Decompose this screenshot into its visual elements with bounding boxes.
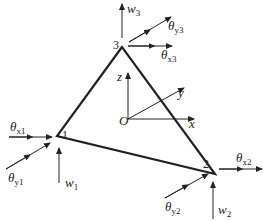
w2-label: w2	[218, 202, 231, 219]
node-3-label: 3	[113, 38, 119, 52]
theta-x3-label: θx3	[161, 47, 177, 64]
y-axis-label: y	[176, 85, 184, 100]
node-1-label: 1	[62, 128, 68, 142]
node-2-label: 2	[203, 157, 209, 171]
triangle-edges	[57, 47, 215, 174]
origin-label: O	[119, 113, 129, 128]
theta-y3-label: θy3	[168, 18, 184, 35]
node-3-dofs: w3 θy3 θx3	[122, 1, 184, 64]
theta-y1-label: θy1	[8, 170, 23, 187]
coordinate-axes: O z x y	[116, 69, 195, 131]
z-axis-label: z	[116, 69, 122, 84]
node-2-dofs: θx2 θy2 w2	[165, 150, 262, 219]
theta-x1-label: θx1	[10, 119, 25, 136]
x-axis-label: x	[188, 116, 195, 131]
theta-x2-label: θx2	[236, 150, 251, 167]
w3-label: w3	[127, 1, 141, 18]
triangle-element-diagram: O z x y 3 1 2 w3 θy3 θx3 θx1 θy1 w1 θx2 …	[0, 0, 263, 221]
w1-label: w1	[65, 175, 78, 192]
theta-y2-label: θy2	[165, 199, 180, 216]
